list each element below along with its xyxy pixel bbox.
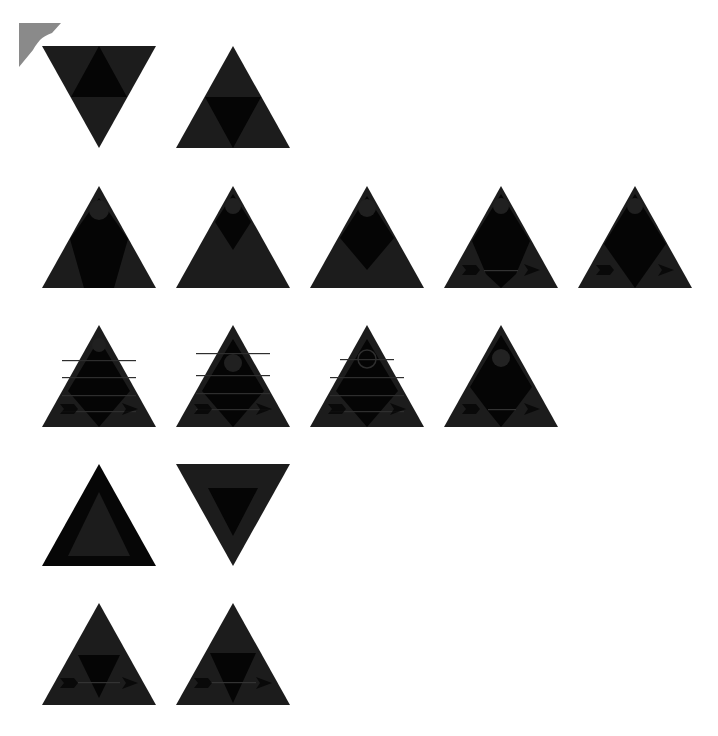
triangle-glyph xyxy=(42,325,156,427)
triangle-glyph xyxy=(176,46,290,148)
triangle-glyph xyxy=(42,186,156,288)
triangle-glyph xyxy=(444,325,558,427)
triangle-up-diamond-arrows-icon[interactable] xyxy=(444,186,558,290)
triangle-up-small-inner-arrows-icon[interactable] xyxy=(42,603,156,707)
triangle-up-diamond-arrows-tall-icon[interactable] xyxy=(578,186,692,290)
triangle-glyph xyxy=(42,46,156,148)
triangle-up-striped-arrows-icon[interactable] xyxy=(42,325,156,429)
triangle-glyph xyxy=(176,186,290,288)
triangle-glyph xyxy=(310,186,424,288)
triangle-glyph xyxy=(578,186,692,288)
triangle-down-inner-up-icon[interactable] xyxy=(42,46,156,150)
triangle-up-ring-arrows-icon[interactable] xyxy=(310,325,424,429)
triangle-up-inner-down-icon[interactable] xyxy=(176,46,290,150)
triangle-glyph xyxy=(310,325,424,427)
triangle-up-diamond-medium-icon[interactable] xyxy=(310,186,424,290)
triangle-glyph xyxy=(176,464,290,566)
triangle-up-striped-circle-arrows-icon[interactable] xyxy=(176,325,290,429)
triangle-up-outline-icon[interactable] xyxy=(42,464,156,568)
triangle-glyph xyxy=(444,186,558,288)
triangle-up-wide-inner-arrows-icon[interactable] xyxy=(176,603,290,707)
triangle-up-diamond-small-icon[interactable] xyxy=(176,186,290,290)
triangle-up-dot-arrows-icon[interactable] xyxy=(444,325,558,429)
triangle-glyph xyxy=(176,325,290,427)
triangle-up-diamond-large-icon[interactable] xyxy=(42,186,156,290)
triangle-glyph xyxy=(42,603,156,705)
triangle-glyph xyxy=(42,464,156,566)
triangle-glyph xyxy=(176,603,290,705)
triangle-down-inner-down-icon[interactable] xyxy=(176,464,290,568)
